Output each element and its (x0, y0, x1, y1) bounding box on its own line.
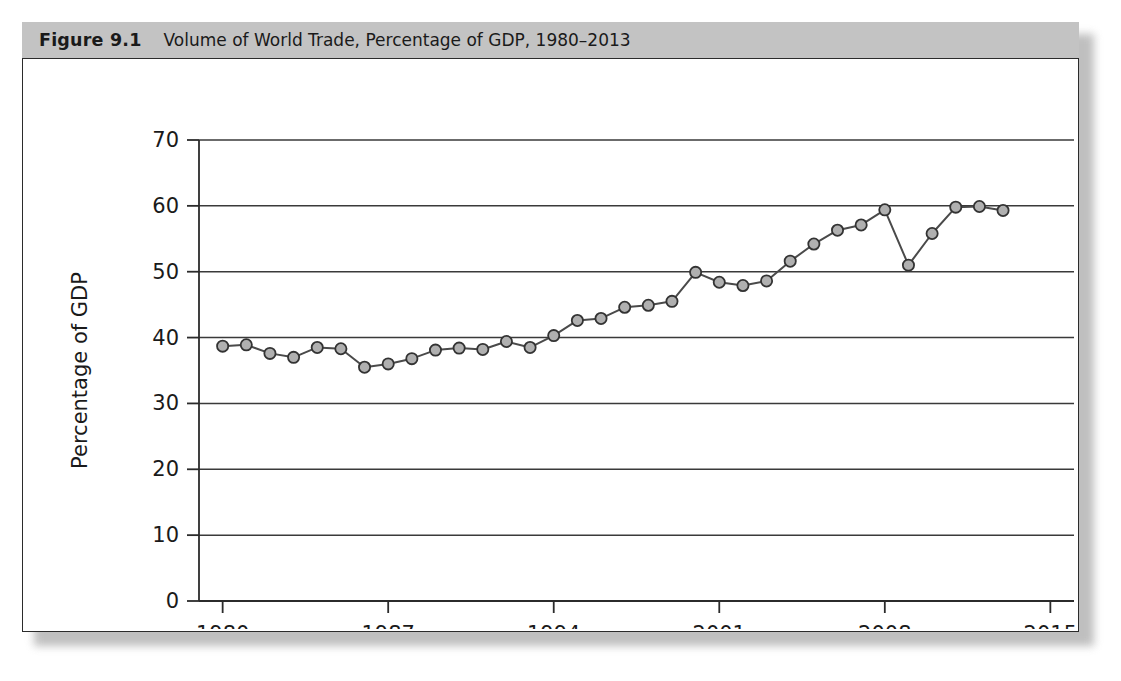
data-point-1981 (241, 339, 252, 350)
x-tick-label-2008: 2008 (858, 622, 911, 629)
data-point-1992 (501, 336, 512, 347)
x-tick-label-1980: 1980 (196, 622, 249, 629)
data-point-2008 (879, 204, 890, 215)
figure-container: Figure 9.1 Volume of World Trade, Percen… (0, 0, 1121, 681)
data-point-2009 (903, 260, 914, 271)
x-tick-label-1994: 1994 (527, 622, 580, 629)
y-tick-label-20: 20 (152, 457, 179, 481)
data-point-1980 (217, 341, 228, 352)
data-point-1983 (288, 352, 299, 363)
data-point-1998 (643, 300, 654, 311)
data-point-1994 (548, 330, 559, 341)
y-tick-label-40: 40 (152, 326, 179, 350)
y-axis (187, 140, 199, 601)
y-tick-label-50: 50 (152, 260, 179, 284)
data-point-1984 (312, 342, 323, 353)
data-point-1987 (383, 358, 394, 369)
data-point-1985 (335, 343, 346, 354)
line-chart: 010203040506070 198019871994200120082015… (23, 59, 1076, 629)
data-point-1993 (524, 342, 535, 353)
figure-box: Figure 9.1 Volume of World Trade, Percen… (22, 22, 1079, 632)
data-point-2000 (690, 267, 701, 278)
data-point-2010 (927, 228, 938, 239)
data-point-markers (217, 201, 1009, 373)
data-point-2011 (950, 202, 961, 213)
y-tick-label-0: 0 (166, 589, 179, 613)
data-point-2001 (714, 277, 725, 288)
data-point-2013 (997, 205, 1008, 216)
data-point-1991 (477, 344, 488, 355)
x-tick-label-2001: 2001 (693, 622, 746, 629)
data-point-2004 (785, 256, 796, 267)
figure-number-label: Figure 9.1 (39, 30, 142, 50)
data-point-1995 (572, 315, 583, 326)
plot-frame: 010203040506070 198019871994200120082015… (22, 58, 1079, 632)
data-point-1988 (406, 353, 417, 364)
x-tick-label-1987: 1987 (361, 622, 414, 629)
data-point-2006 (832, 225, 843, 236)
x-axis (199, 601, 1074, 613)
data-point-1986 (359, 362, 370, 373)
y-axis-title: Percentage of GDP (68, 272, 92, 469)
gridlines-group (199, 140, 1074, 535)
data-point-2003 (761, 275, 772, 286)
x-axis-tick-labels: 198019871994200120082015 (196, 622, 1076, 629)
data-point-2012 (974, 201, 985, 212)
data-point-2005 (808, 238, 819, 249)
data-point-1999 (666, 296, 677, 307)
figure-title-bar: Figure 9.1 Volume of World Trade, Percen… (22, 22, 1079, 58)
y-tick-label-10: 10 (152, 523, 179, 547)
data-point-1997 (619, 302, 630, 313)
data-point-2007 (856, 219, 867, 230)
y-tick-label-30: 30 (152, 391, 179, 415)
x-tick-label-2015: 2015 (1024, 622, 1076, 629)
y-tick-label-70: 70 (152, 128, 179, 152)
y-axis-title-text: Percentage of GDP (68, 272, 92, 469)
data-point-1982 (264, 348, 275, 359)
data-point-2002 (737, 280, 748, 291)
data-point-1990 (454, 343, 465, 354)
data-point-1996 (595, 313, 606, 324)
y-axis-tick-labels: 010203040506070 (152, 128, 179, 613)
data-point-1989 (430, 344, 441, 355)
figure-caption: Volume of World Trade, Percentage of GDP… (164, 30, 631, 50)
y-tick-label-60: 60 (152, 194, 179, 218)
